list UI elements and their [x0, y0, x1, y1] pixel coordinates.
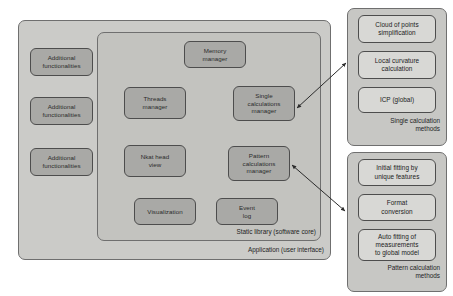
format-conversion-box[interactable]: Format conversion: [358, 194, 436, 221]
cloud-of-points-simplification-box[interactable]: Cloud of points simplification: [358, 15, 436, 43]
additional-functionality-box-2[interactable]: Additional functionalities: [30, 97, 93, 125]
event-log-box[interactable]: Event log: [216, 198, 278, 225]
initial-fitting-unique-features-box[interactable]: Initial fitting by unique features: [358, 159, 436, 186]
icp-global-box[interactable]: ICP (global): [358, 87, 436, 113]
single-calculations-manager-box[interactable]: Single calculations manager: [233, 86, 295, 121]
memory-manager-box[interactable]: Memory manager: [184, 41, 246, 68]
static-library-caption: Static library (software core): [190, 228, 316, 236]
single-calculation-methods-caption: Single calculation methods: [348, 117, 440, 133]
local-curvature-calculation-box[interactable]: Local curvature calculation: [358, 51, 436, 79]
diagram-canvas: Application (user interface) Additional …: [0, 0, 453, 296]
additional-functionality-box-3[interactable]: Additional functionalities: [30, 148, 93, 176]
pattern-calculation-methods-caption: Pattern calculation methods: [348, 264, 440, 280]
threads-manager-box[interactable]: Threads manager: [124, 87, 186, 119]
visualization-box[interactable]: Visualization: [134, 198, 196, 225]
pattern-calculations-manager-box[interactable]: Pattern calculations manager: [228, 146, 290, 181]
application-caption: Application (user interface): [196, 246, 324, 254]
additional-functionality-box-1[interactable]: Additional functionalities: [30, 48, 93, 76]
nkat-head-view-box[interactable]: Nkat head view: [124, 145, 186, 177]
auto-fitting-measurements-box[interactable]: Auto fitting of measurements to global m…: [358, 229, 436, 261]
